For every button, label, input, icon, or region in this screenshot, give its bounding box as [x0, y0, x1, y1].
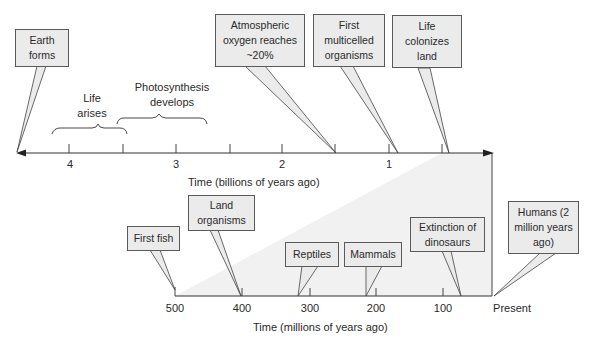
event-earth-forms: Earth forms [15, 29, 69, 67]
event-atmospheric-oxygen: Atmospheric oxygen reaches ~20% [215, 14, 305, 67]
top-tick-1: 1 [386, 158, 392, 170]
event-label: Life colonizes land [399, 19, 455, 64]
event-reptiles: Reptiles [285, 242, 339, 267]
bottom-tick-200: 200 [367, 302, 385, 314]
top-tick-4: 4 [67, 158, 73, 170]
event-label: Extinction of dinosaurs [413, 220, 483, 250]
range-life-arises: Life arises [70, 91, 114, 121]
event-label: Land organisms [193, 198, 251, 228]
bottom-tick-present: Present [493, 302, 531, 314]
event-label: First fish [134, 231, 174, 246]
event-label: Humans (2 million years ago) [514, 205, 574, 250]
bottom-tick-100: 100 [434, 302, 452, 314]
event-life-colonizes-land: Life colonizes land [392, 15, 462, 68]
event-extinction-dinosaurs: Extinction of dinosaurs [410, 217, 485, 252]
event-label: First multicelled organisms [318, 18, 380, 63]
range-photosynthesis: Photosynthesis develops [122, 80, 222, 110]
bottom-tick-500: 500 [166, 302, 184, 314]
event-first-multicelled: First multicelled organisms [313, 14, 385, 67]
event-label: Earth forms [22, 33, 62, 63]
event-label: Mammals [350, 247, 396, 262]
event-humans: Humans (2 million years ago) [508, 201, 579, 254]
event-label: Reptiles [293, 247, 331, 262]
event-mammals: Mammals [344, 242, 402, 267]
event-label: Atmospheric oxygen reaches ~20% [222, 18, 298, 63]
bottom-tick-400: 400 [233, 302, 251, 314]
event-first-fish: First fish [127, 226, 180, 251]
bottom-axis-title: Time (millions of years ago) [253, 321, 388, 333]
top-axis-title: Time (billions of years ago) [188, 176, 320, 188]
top-tick-2: 2 [279, 158, 285, 170]
event-land-organisms: Land organisms [188, 195, 255, 231]
bottom-tick-300: 300 [301, 302, 319, 314]
top-tick-3: 3 [173, 158, 179, 170]
